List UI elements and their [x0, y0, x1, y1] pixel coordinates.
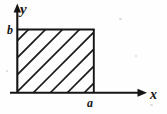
hatch-line: [67, 0, 160, 93]
right-arrow-icon: [138, 89, 148, 97]
x-axis-label: x: [150, 88, 157, 102]
figure-canvas: y x b a: [0, 0, 167, 114]
y-tick-label-b: b: [7, 24, 13, 36]
y-axis-label: y: [20, 2, 27, 17]
coordinate-diagram: [0, 0, 167, 114]
x-tick-label-a: a: [87, 97, 93, 109]
hatch-line: [84, 0, 167, 93]
hatch-line: [33, 0, 126, 93]
hatch-line: [16, 0, 109, 93]
hatch-line: [50, 0, 143, 93]
